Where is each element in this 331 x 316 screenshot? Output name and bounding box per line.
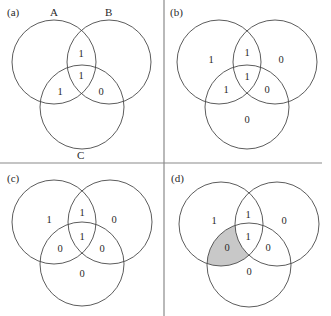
- circle-b: [67, 20, 151, 104]
- region-abc: 1: [79, 231, 84, 242]
- region-c-only: 0: [244, 114, 249, 125]
- region-ac: 1: [57, 86, 62, 97]
- panel-label: (d): [171, 172, 184, 185]
- panel-label: (b): [170, 6, 183, 19]
- circle-a: [177, 20, 261, 104]
- region-c-only: 0: [79, 268, 84, 279]
- panel-a: (a) A B C 1 1 1 0: [7, 6, 151, 161]
- region-abc: 1: [244, 71, 249, 82]
- region-ab: 1: [79, 207, 84, 218]
- region-bc: 0: [99, 243, 104, 254]
- region-ac: 0: [224, 242, 229, 253]
- set-label-a: A: [50, 6, 58, 18]
- panel-d: (d) 1 1 0 1 0 0 0: [171, 172, 319, 307]
- region-bc: 0: [264, 84, 269, 95]
- circle-b: [235, 182, 319, 266]
- region-ab: 1: [78, 48, 83, 59]
- region-a-only: 1: [211, 215, 216, 226]
- region-b-only: 0: [278, 54, 283, 65]
- region-abc: 1: [245, 231, 250, 242]
- circle-a: [12, 20, 96, 104]
- venn-figure: (a) A B C 1 1 1 0 (b) 1 1 0 1 1 0 0 (c) …: [0, 0, 331, 316]
- region-ab: 1: [245, 209, 250, 220]
- region-ab: 1: [244, 47, 249, 58]
- region-b-only: 0: [281, 215, 286, 226]
- region-bc: 0: [98, 86, 103, 97]
- region-ac: 0: [57, 243, 62, 254]
- region-abc: 1: [78, 70, 83, 81]
- panel-label: (a): [7, 6, 20, 19]
- circle-b: [233, 20, 317, 104]
- region-a-only: 1: [208, 54, 213, 65]
- region-c-only: 0: [246, 266, 251, 277]
- panel-b: (b) 1 1 0 1 1 0 0: [170, 6, 317, 149]
- set-label-b: B: [105, 6, 112, 18]
- region-ac: 1: [223, 84, 228, 95]
- panel-c: (c) 1 1 0 1 0 0 0: [7, 172, 152, 306]
- region-a-only: 1: [46, 214, 51, 225]
- region-b-only: 0: [111, 214, 116, 225]
- region-bc: 0: [265, 242, 270, 253]
- set-label-c: C: [77, 149, 84, 161]
- panel-label: (c): [7, 172, 20, 185]
